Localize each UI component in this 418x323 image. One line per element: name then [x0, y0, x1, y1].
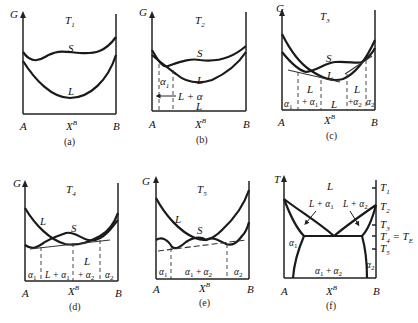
region-alpha1: α1: [160, 75, 169, 90]
curve-label-s: S: [68, 42, 74, 54]
end-label-b: B: [243, 118, 250, 130]
region-l-plus-alpha2: + α2: [78, 270, 95, 282]
region-l-plus-alpha1-l: L: [306, 83, 313, 95]
panel-f: T L L + α1 L + α2 α1 α2 α1 + α2 T1 T2 T3…: [274, 173, 414, 312]
solvus-right: [362, 236, 367, 278]
caption-a: (a): [64, 136, 75, 148]
free-energy-composition-diagram: G T1 S L A XB B (a) G T2 S L α1 L + α L …: [0, 0, 418, 323]
g-label: G: [142, 175, 150, 187]
solidus-left: [284, 199, 304, 236]
g-label: G: [139, 6, 147, 18]
caption-f: (f): [326, 300, 336, 312]
region-alpha1: α1: [284, 99, 293, 111]
temperature-label: T4: [66, 183, 76, 198]
tick-label-t1: T1: [380, 181, 390, 196]
common-tangent-right: [345, 56, 372, 74]
g-axis-arrow-icon: [20, 11, 26, 18]
x-axis-label: XB: [65, 119, 78, 132]
temperature-label: T1: [65, 14, 75, 29]
region-alpha2: α2: [366, 97, 375, 109]
end-label-a: A: [152, 283, 160, 295]
region-alpha1-plus-alpha2: α1 + α2: [185, 267, 213, 279]
caption-b: (b): [196, 134, 208, 146]
caption-e: (e): [199, 297, 210, 309]
end-label-b: B: [247, 283, 254, 295]
region-l-plus-alpha1: L + α1: [44, 270, 70, 282]
g-label: G: [10, 8, 18, 20]
t-axis-arrow-icon: [281, 175, 287, 182]
curve-label-s: S: [71, 222, 77, 234]
region-alpha2: α2: [234, 267, 243, 279]
curve-label-s: S: [197, 224, 203, 236]
caption-c: (c): [326, 130, 337, 142]
panel-c: G T3 S L α1 L + α1 L L +α2 α2 A XB B (c): [276, 2, 378, 142]
end-label-a: A: [277, 116, 285, 128]
region-l: L: [195, 100, 202, 112]
liquidus-right: [334, 205, 376, 236]
panel-a: G T1 S L A XB B (a): [10, 8, 120, 148]
region-alpha1: α1: [28, 270, 37, 282]
g-label: G: [276, 2, 284, 14]
region-l-plus-alpha1: + α1: [302, 97, 319, 109]
end-label-b: B: [113, 120, 120, 132]
g-axis-arrow-icon: [149, 11, 155, 18]
curve-label-l: L: [174, 213, 181, 225]
curve-label-s: S: [326, 52, 332, 64]
x-axis-label: XB: [194, 117, 207, 130]
temperature-label: T5: [197, 183, 207, 198]
region-alpha1: α1: [159, 267, 168, 279]
region-l-plus-alpha2-l: L: [353, 83, 360, 95]
x-axis-label: XB: [323, 113, 336, 126]
region-alpha1: α1: [289, 238, 298, 250]
region-l-plus-alpha1: L + α1: [308, 199, 334, 211]
g-axis-arrow-icon: [153, 176, 159, 183]
curve-label-l: L: [39, 215, 46, 227]
temperature-label: T2: [195, 14, 205, 29]
g-axis-arrow-icon: [22, 180, 28, 187]
region-l-plus-alpha2-l: L: [83, 255, 90, 267]
end-label-a: A: [280, 285, 288, 297]
x-axis-label: XB: [325, 284, 338, 297]
panel-e: G T5 L S α1 α1 + α2 α2 A XB B (e): [142, 175, 254, 309]
end-label-a: A: [148, 118, 156, 130]
region-l: L: [326, 180, 333, 192]
tick-label-t2: T2: [380, 200, 390, 215]
caption-d: (d): [69, 301, 81, 313]
panel-b: G T2 S L α1 L + α L A XB B (b): [139, 6, 250, 146]
curve-label-l: L: [67, 85, 74, 97]
x-axis-label: XB: [67, 284, 80, 297]
region-alpha2: α2: [105, 270, 114, 282]
solid-curve-s: [156, 222, 249, 248]
t-label: T: [274, 173, 281, 185]
end-label-b: B: [373, 285, 380, 297]
curve-label-s: S: [197, 47, 203, 59]
end-label-a: A: [21, 287, 29, 299]
region-l-plus-alpha2: L + α2: [342, 199, 368, 211]
temperature-label: T3: [320, 10, 330, 25]
curve-label-l: L: [196, 74, 203, 86]
end-label-b: B: [371, 116, 378, 128]
x-axis-label: XB: [198, 281, 211, 294]
region-l-plus-alpha2: +α2: [348, 97, 362, 109]
region-l: L: [330, 98, 337, 110]
g-label: G: [13, 177, 21, 189]
curve-label-l: L: [326, 69, 333, 81]
end-label-b: B: [115, 287, 122, 299]
end-label-a: A: [19, 120, 27, 132]
region-alpha1-plus-alpha2: α1 + α2: [315, 266, 343, 278]
panel-d: G T4 L S α1 L + α1 L + α2 α2 A XB B (d): [13, 177, 122, 313]
